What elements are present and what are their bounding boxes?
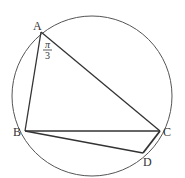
point-label-a: A (33, 19, 42, 33)
segment-bd (25, 131, 143, 153)
angle-a-denominator: 3 (45, 50, 50, 61)
circle-diagram: A B C D π 3 (0, 0, 185, 178)
circumcircle (12, 16, 172, 176)
segment-ac (41, 32, 160, 131)
point-label-d: D (143, 155, 152, 169)
segment-ab (25, 32, 41, 131)
point-label-b: B (13, 125, 21, 139)
angle-a-numerator: π (45, 39, 51, 50)
point-label-c: C (163, 125, 171, 139)
